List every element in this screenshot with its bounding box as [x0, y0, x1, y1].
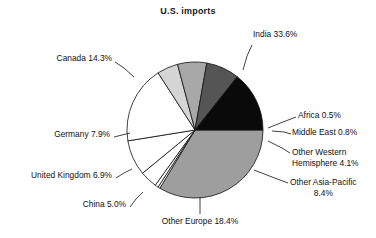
- slice-label-africa: Africa 0.5%: [298, 110, 341, 121]
- pie-chart-figure: U.S. imports India 33.6% Africa 0.5% Mid…: [0, 0, 376, 238]
- slice-label-canada: Canada 14.3%: [24, 53, 112, 64]
- leader-line-other-western-hemisphere: [268, 141, 290, 153]
- slice-label-germany: Germany 7.9%: [20, 129, 110, 140]
- leader-line-india: [243, 45, 252, 70]
- slice-label-other-western-hemisphere-line2: Hemisphere 4.1%: [292, 158, 359, 168]
- leader-line-united-kingdom: [116, 169, 132, 178]
- leader-line-other-asia-pacific: [254, 170, 288, 183]
- leader-line-middle-east: [272, 131, 291, 134]
- leader-line-china: [130, 192, 143, 207]
- slice-label-other-asia-pacific: Other Asia-Pacific 8.4%: [290, 177, 357, 198]
- slice-label-united-kingdom: United Kingdom 6.9%: [6, 170, 112, 181]
- slice-label-other-western-hemisphere: Other Western Hemisphere 4.1%: [292, 147, 359, 168]
- slice-label-india: India 33.6%: [253, 29, 297, 40]
- pie-slices-group: [127, 62, 263, 198]
- slice-label-other-europe: Other Europe 18.4%: [150, 216, 250, 227]
- leader-line-canada: [115, 62, 134, 77]
- slice-label-china: China 5.0%: [48, 199, 126, 210]
- slice-label-other-asia-pacific-line2: 8.4%: [290, 188, 357, 199]
- slice-label-middle-east: Middle East 0.8%: [292, 127, 357, 138]
- slice-label-other-asia-pacific-line1: Other Asia-Pacific: [290, 177, 357, 187]
- slice-label-other-western-hemisphere-line1: Other Western: [292, 147, 346, 157]
